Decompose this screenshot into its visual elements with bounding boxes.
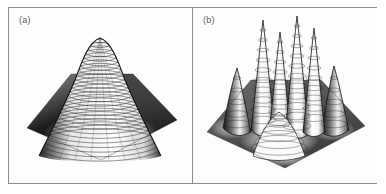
surface-plot-b bbox=[193, 8, 378, 183]
panel-a: (a) bbox=[9, 8, 192, 183]
figure-container: (a) bbox=[0, 0, 386, 194]
panel-label-b: (b) bbox=[203, 15, 215, 25]
panel-label-a: (a) bbox=[19, 15, 31, 25]
surface-plot-a bbox=[9, 8, 192, 183]
panel-b: (b) bbox=[193, 8, 378, 183]
figure-frame: (a) bbox=[8, 7, 377, 184]
